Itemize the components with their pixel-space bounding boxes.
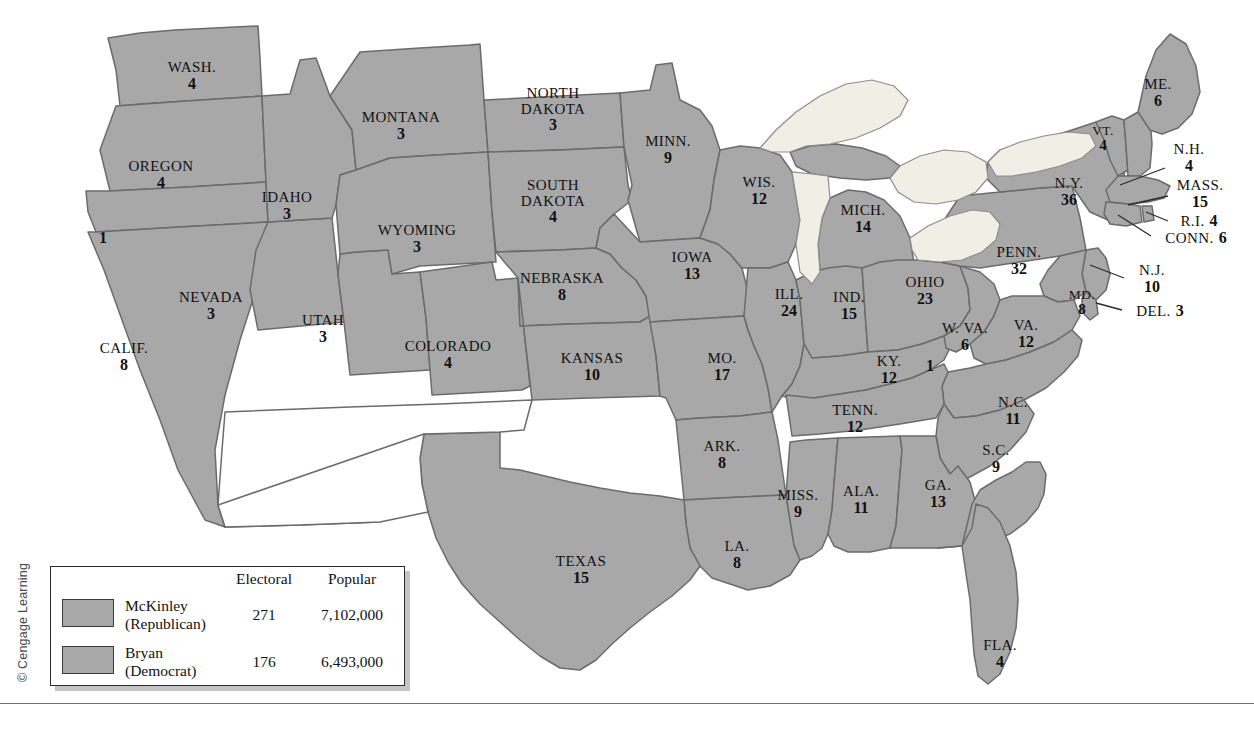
legend-party-mckinley: (Republican) [125, 615, 228, 632]
legend-swatch-bryan [62, 646, 114, 674]
legend-electoral-bryan: 176 [228, 638, 300, 685]
legend-candidate-mckinley: McKinley [125, 597, 188, 614]
legend-header-electoral: Electoral [228, 567, 300, 591]
legend-electoral-mckinley: 271 [228, 591, 300, 638]
legend-header-row: Electoral Popular [51, 567, 404, 591]
legend-row-bryan: Bryan (Democrat) 176 6,493,000 [51, 638, 404, 685]
legend-popular-mckinley: 7,102,000 [300, 591, 404, 638]
legend-row-mckinley: McKinley (Republican) 271 7,102,000 [51, 591, 404, 638]
map-legend: Electoral Popular McKinley (Republican) … [50, 566, 405, 686]
legend-candidate-bryan: Bryan [125, 644, 163, 661]
legend-header-popular: Popular [300, 567, 404, 591]
electoral-map: .st{fill:#a8a8a8;stroke:#6b6b6b;stroke-w… [0, 0, 1254, 738]
bottom-divider [0, 703, 1254, 704]
legend-swatch-mckinley [62, 599, 114, 627]
legend-popular-bryan: 6,493,000 [300, 638, 404, 685]
copyright-notice: © Cengage Learning [16, 532, 30, 682]
legend-party-bryan: (Democrat) [125, 662, 228, 679]
